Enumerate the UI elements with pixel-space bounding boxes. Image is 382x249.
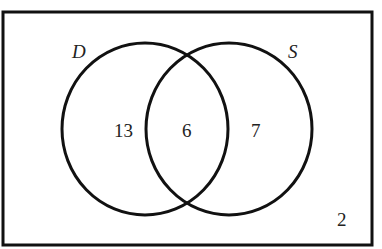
venn-diagram: D S 13 6 7 2 bbox=[0, 0, 382, 249]
set-s-label: S bbox=[288, 41, 298, 62]
outside-count: 2 bbox=[337, 209, 347, 230]
set-d-label: D bbox=[71, 41, 86, 62]
s-only-count: 7 bbox=[251, 120, 261, 141]
d-only-count: 13 bbox=[114, 120, 133, 141]
intersection-count: 6 bbox=[182, 120, 192, 141]
